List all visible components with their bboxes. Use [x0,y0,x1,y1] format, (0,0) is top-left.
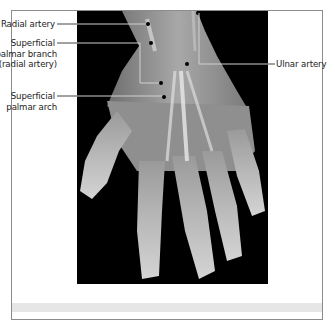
superficial-palmar-arch-text-1: Superficial [6,91,55,102]
caption-band [12,303,322,312]
superficial-palmar-branch-text-1: Superficial [0,38,55,49]
radial-artery-text: Radial artery [1,19,55,29]
ulnar-artery-text: Ulnar artery [276,59,327,69]
superficial-palmar-branch-text-2: palmar branch [0,49,57,60]
hand-illustration [77,11,268,284]
superficial-palmar-branch-text-3: (radial artery) [0,59,57,70]
superficial-palmar-arch-text-2: palmar arch [6,102,57,113]
label-radial-artery: Radial artery [1,19,55,30]
label-superficial-palmar-arch: Superficial palmar arch [6,91,55,112]
label-ulnar-artery: Ulnar artery [276,59,327,70]
label-superficial-palmar-branch: Superficial palmar branch (radial artery… [0,38,55,70]
hand-dissection-photo [77,11,268,284]
